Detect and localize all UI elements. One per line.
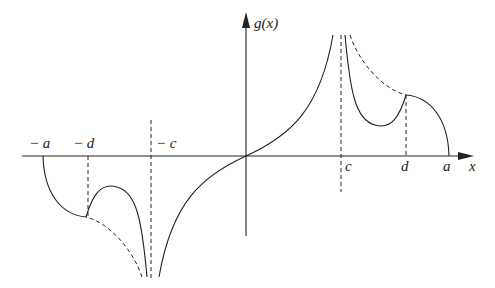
y-axis-label: g(x) (254, 15, 278, 32)
x-axis-label: x (468, 158, 476, 174)
y-axis-arrow-icon (242, 12, 250, 28)
curve-d-to-a (406, 95, 449, 156)
curve-c-to-d (345, 35, 406, 126)
tick-label-c: c (345, 158, 352, 174)
tick-label-neg-d: − d (73, 135, 95, 151)
tick-label-d: d (401, 158, 409, 174)
dashed-curve-neg-d-to-neg-c (86, 217, 142, 277)
diagram-canvas: g(x) x − a − d − c c d a (0, 0, 495, 288)
dashed-curve-c-to-d (350, 35, 406, 95)
curve-origin-to-c (246, 35, 333, 156)
tick-label-neg-c: − c (156, 135, 177, 151)
tick-label-neg-a: − a (29, 135, 50, 151)
curve-neg-c-to-origin (159, 156, 246, 277)
tick-label-a: a (443, 158, 451, 174)
curve-neg-a-to-neg-d (43, 156, 86, 217)
curve-neg-d-to-neg-c (86, 186, 147, 277)
